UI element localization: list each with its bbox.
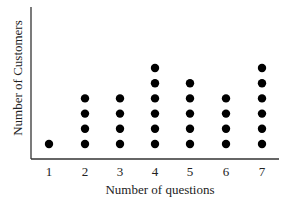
x-tick-label: 2 bbox=[75, 164, 95, 180]
data-dot bbox=[151, 64, 159, 72]
data-dot bbox=[81, 125, 89, 133]
data-dot bbox=[116, 94, 124, 102]
dots-group bbox=[45, 64, 266, 148]
x-tick-label: 4 bbox=[145, 164, 165, 180]
data-dot bbox=[222, 125, 230, 133]
data-dot bbox=[45, 140, 53, 148]
data-dot bbox=[116, 125, 124, 133]
data-dot bbox=[258, 79, 266, 87]
x-tick-label: 1 bbox=[39, 164, 59, 180]
data-dot bbox=[186, 79, 194, 87]
data-dot bbox=[222, 109, 230, 117]
dot-plot: Number of Customers 1234567 Number of qu… bbox=[0, 0, 288, 205]
x-axis-label: Number of questions bbox=[40, 182, 280, 198]
x-tick-label: 3 bbox=[110, 164, 130, 180]
x-tick-label: 5 bbox=[180, 164, 200, 180]
data-dot bbox=[258, 140, 266, 148]
data-dot bbox=[186, 140, 194, 148]
data-dot bbox=[151, 79, 159, 87]
data-dot bbox=[151, 140, 159, 148]
data-dot bbox=[151, 125, 159, 133]
data-dot bbox=[151, 94, 159, 102]
data-dot bbox=[258, 94, 266, 102]
data-dot bbox=[81, 109, 89, 117]
data-dot bbox=[186, 109, 194, 117]
data-dot bbox=[116, 140, 124, 148]
data-dot bbox=[222, 94, 230, 102]
data-dot bbox=[186, 125, 194, 133]
data-dot bbox=[258, 64, 266, 72]
data-dot bbox=[81, 140, 89, 148]
y-axis-label: Number of Customers bbox=[10, 8, 26, 148]
data-dot bbox=[258, 125, 266, 133]
data-dot bbox=[222, 140, 230, 148]
data-dot bbox=[186, 94, 194, 102]
data-dot bbox=[151, 109, 159, 117]
x-tick-label: 6 bbox=[216, 164, 236, 180]
x-tick-label: 7 bbox=[252, 164, 272, 180]
data-dot bbox=[258, 109, 266, 117]
data-dot bbox=[81, 94, 89, 102]
data-dot bbox=[116, 109, 124, 117]
